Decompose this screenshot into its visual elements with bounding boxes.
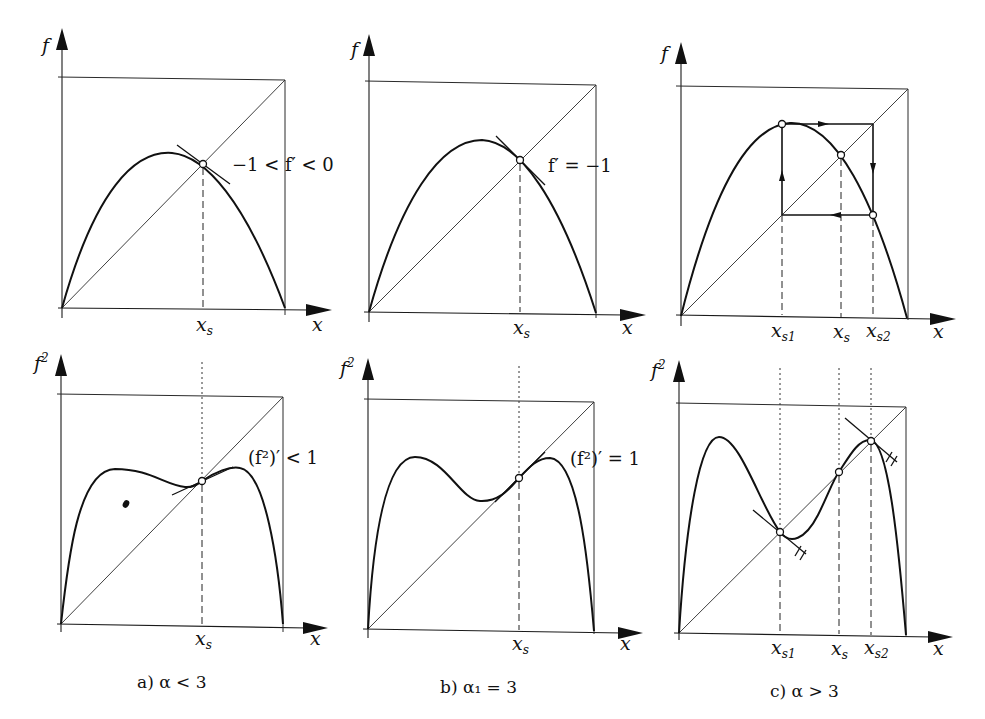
- fixed-point: [836, 469, 843, 476]
- xs2-tick-label: xs2: [864, 636, 889, 661]
- fixed-point: [199, 478, 206, 485]
- xs1-tick-label: xs1: [771, 636, 796, 661]
- cycle-point-1: [777, 529, 784, 536]
- x-axis-label: x: [310, 627, 321, 649]
- top-frame-line: [365, 81, 596, 85]
- x-axis-label: x: [933, 637, 944, 659]
- stability-annotation: f′ = −1: [548, 155, 612, 176]
- panel-b-bottom: f2 x xs (f²)′ = 1 b) α₁ = 3: [338, 356, 643, 697]
- caption-b: b) α₁ = 3: [440, 677, 517, 697]
- f2-curve: [61, 468, 283, 624]
- xs-tick-label: xs: [195, 627, 212, 652]
- x-axis: [674, 633, 933, 637]
- xs-tick-label: xs: [833, 320, 850, 345]
- f-curve: [62, 153, 285, 308]
- xs-tick-label: xs: [513, 316, 530, 341]
- arrow-right-icon: [818, 121, 829, 127]
- fixed-point: [516, 475, 523, 482]
- identity-diagonal: [369, 85, 596, 312]
- y-axis-arrow-icon: [56, 28, 68, 50]
- cycle-point-1: [779, 121, 786, 128]
- xs1-tick-label: xs1: [771, 319, 796, 344]
- f2-curve: [679, 437, 906, 635]
- y-axis-label: f: [349, 38, 361, 60]
- y-axis-arrow-icon: [363, 34, 375, 56]
- y-axis-label: f: [40, 34, 52, 56]
- panel-a-bottom: f2 x xs (f²)′ < 1 a) α < 3: [32, 351, 328, 692]
- caption-a: a) α < 3: [137, 672, 207, 692]
- y-axis-label: f2: [338, 356, 355, 379]
- panel-c-bottom: f2 x xs1 xs xs2 c) α > 3: [649, 358, 953, 701]
- fixed-point: [200, 161, 207, 168]
- x-axis-label: x: [620, 632, 631, 654]
- panel-c-top: f x xs1 xs xs2: [659, 42, 956, 345]
- y-axis-arrow-icon: [673, 360, 685, 382]
- top-frame-line: [676, 86, 908, 89]
- x-axis: [364, 312, 625, 315]
- x-axis-label: x: [933, 320, 944, 342]
- arrow-down-icon: [870, 163, 876, 174]
- fixed-point: [838, 152, 845, 159]
- y-axis-arrow-icon: [55, 354, 67, 376]
- x-axis-label: x: [622, 316, 633, 338]
- top-frame-line: [58, 77, 285, 80]
- top-frame-line: [364, 399, 594, 402]
- xs-tick-label: xs: [512, 632, 529, 657]
- xs-tick-label: xs: [831, 637, 848, 662]
- y-axis-arrow-icon: [675, 42, 687, 64]
- y-axis-arrow-icon: [362, 358, 374, 380]
- arrow-left-icon: [830, 212, 841, 218]
- y-axis-label: f2: [32, 351, 49, 374]
- arrow-up-icon: [779, 170, 785, 181]
- stability-annotation: (f²)′ = 1: [570, 448, 640, 469]
- y-axis-label: f2: [649, 358, 666, 381]
- x-axis: [58, 308, 310, 310]
- y-axis-label: f: [659, 42, 671, 64]
- cycle-point-2: [870, 212, 877, 219]
- panel-b-top: f x xs f′ = −1: [349, 34, 646, 341]
- panel-a-top: f x xs −1 < f′ < 0: [40, 28, 334, 338]
- x-axis: [676, 315, 935, 319]
- x-axis: [57, 624, 308, 628]
- bifurcation-figure: f x xs −1 < f′ < 0 f x xs f′ = −1: [0, 0, 985, 719]
- caption-c: c) α > 3: [770, 681, 839, 701]
- identity-diagonal: [61, 397, 283, 624]
- stability-annotation: −1 < f′ < 0: [232, 154, 334, 175]
- x-axis-label: x: [312, 313, 323, 335]
- stability-annotation: (f²)′ < 1: [248, 447, 318, 468]
- x-axis: [363, 629, 623, 633]
- fixed-point: [517, 157, 524, 164]
- identity-diagonal: [62, 80, 285, 308]
- xs2-tick-label: xs2: [866, 319, 891, 344]
- cycle-point-2: [868, 438, 875, 445]
- xs-tick-label: xs: [196, 313, 213, 338]
- ink-blot: [121, 499, 130, 509]
- f2-curve: [368, 457, 594, 631]
- top-frame-line: [57, 394, 283, 397]
- identity-diagonal: [368, 402, 594, 629]
